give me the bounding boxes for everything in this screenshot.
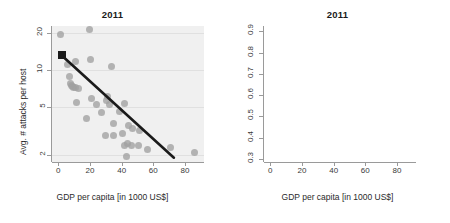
x-tick-label-80: 80 (173, 166, 197, 175)
y-tick-mark (259, 138, 263, 139)
y-tick-label-2: 2 (26, 149, 44, 158)
y-tick-mark (47, 155, 51, 156)
y-tick-label-0.8: 0.8 (238, 47, 256, 56)
y-tick-label-0.4: 0.4 (238, 132, 256, 141)
panel-title-right: 2011 (225, 9, 450, 20)
y-tick-label-0.6: 0.6 (238, 89, 256, 98)
x-axis-label-right: GDP per capita [in 1000 US$] (225, 192, 450, 202)
y-tick-mark (47, 33, 51, 34)
x-tick-label-60: 60 (141, 166, 165, 175)
y-tick-mark (259, 159, 263, 160)
y-tick-mark (259, 95, 263, 96)
y-tick-label-0.9: 0.9 (238, 25, 256, 34)
x-tick-label-20: 20 (290, 166, 314, 175)
y-tick-label-0.5: 0.5 (238, 110, 256, 119)
y-tick-mark (47, 70, 51, 71)
y-tick-mark (47, 107, 51, 108)
x-tick-label-60: 60 (353, 166, 377, 175)
y-axis-line (51, 26, 52, 162)
x-tick-label-40: 40 (110, 166, 134, 175)
y-tick-mark (259, 53, 263, 54)
figure-two-panel-scatter: 2011 020406080251020 Avg. # attacks per … (0, 0, 450, 223)
trend-line (52, 26, 204, 162)
x-tick-label-20: 20 (78, 166, 102, 175)
y-tick-label-20: 20 (26, 27, 44, 36)
y-tick-label-0.3: 0.3 (238, 153, 256, 162)
y-tick-mark (259, 74, 263, 75)
x-tick-label-0: 0 (258, 166, 282, 175)
y-axis-label-left: Avg. # attacks per host (18, 69, 28, 155)
panel-attacked-hosts: 2011 0204060800.30.40.50.60.70.80.9 % at… (225, 0, 450, 223)
y-tick-mark (259, 31, 263, 32)
y-axis-line (263, 26, 264, 162)
x-tick-label-0: 0 (46, 166, 70, 175)
panel-attacks-per-host: 2011 020406080251020 Avg. # attacks per … (0, 0, 225, 223)
y-tick-label-10: 10 (26, 64, 44, 73)
y-tick-label-0.7: 0.7 (238, 68, 256, 77)
x-axis-line (52, 162, 204, 163)
y-tick-label-5: 5 (26, 101, 44, 110)
highlight-marker-square (58, 51, 66, 59)
y-tick-mark (259, 116, 263, 117)
x-axis-line (264, 162, 416, 163)
x-axis-label-left: GDP per capita [in 1000 US$] (0, 192, 225, 202)
x-tick-label-40: 40 (322, 166, 346, 175)
plot-area-left (52, 26, 204, 162)
panel-title-left: 2011 (0, 9, 225, 20)
x-tick-label-80: 80 (385, 166, 409, 175)
